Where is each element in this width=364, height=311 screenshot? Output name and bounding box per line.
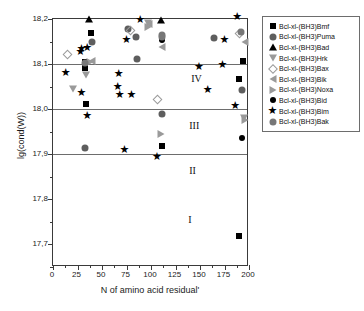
triangle-down-open-marker [69,86,77,93]
data-point: ★ [223,65,233,73]
x-tick-label: 100 [143,270,156,279]
star-marker: ★ [82,44,92,52]
circle-lightgray-marker [158,34,165,41]
data-point [88,30,94,36]
x-axis-tick-labels: 0255075100125150175200 [52,270,248,281]
star-marker: ★ [120,146,130,154]
data-point: ★ [81,93,91,101]
star-marker: ★ [113,83,123,91]
star-marker: ★ [230,101,240,109]
data-point: ★ [140,20,150,28]
x-tick-label: 75 [121,270,130,279]
y-tick [48,244,53,245]
legend-item[interactable]: Bcl-xl-(BH3)Bik [266,74,356,85]
data-point [67,55,74,62]
plot-area: ★★★★★★★★★★★★★★★★★★★★ IIIIIIIV [52,18,248,266]
legend-marker [266,74,279,84]
region-label: I [188,214,191,225]
circle-gray-marker [134,55,141,62]
data-point: ★ [120,95,130,103]
data-point: ★ [224,40,234,48]
legend-item[interactable]: Bcl-xl-(BH3)Bad [266,42,356,53]
legend-marker: ★ [266,106,279,116]
circle-gray-marker [125,25,132,32]
square-filled-marker [83,101,89,107]
y-tick [48,19,53,20]
data-point: ★ [126,40,136,48]
data-point [242,38,249,46]
legend: Bcl-xl-(BH3)BmfBcl-xl-(BH3)PumaBcl-xl-(B… [262,16,360,132]
triangle-left-open-marker [242,38,249,46]
data-point [242,116,249,124]
data-point [134,55,141,62]
data-point: ★ [157,157,167,165]
data-point: ★ [118,87,128,95]
region-label: IV [191,73,202,84]
x-tick-label: 200 [241,270,254,279]
reference-line [53,64,247,65]
x-tick-label: 150 [192,270,205,279]
triangle-down-open-marker [144,19,152,26]
x-tick-minor [90,265,91,268]
star-marker: ★ [61,68,71,76]
legend-item[interactable]: Bcl-xl-(BH3)Bak [266,116,356,127]
legend-label: Bcl-xl-(BH3)Bak [279,117,329,126]
data-point [158,110,165,117]
data-point: ★ [208,90,218,98]
circle-gray-marker [239,86,246,93]
region-label: III [189,120,199,131]
data-point: ★ [119,74,129,82]
diamond-open-marker [126,26,136,36]
diamond-open-marker [235,29,245,39]
triangle-left-open-marker [158,43,165,51]
data-point [240,115,248,122]
star-marker: ★ [220,36,230,44]
star-marker: ★ [268,107,278,115]
star-marker: ★ [114,70,124,78]
y-tick-minor [50,42,53,43]
data-point [144,19,152,26]
data-point: ★ [237,17,247,25]
x-tick-label: 125 [168,270,181,279]
data-point [158,31,165,38]
scatter-chart: ★★★★★★★★★★★★★★★★★★★★ IIIIIIIV 17,717,817… [0,0,364,311]
legend-label: Bcl-xl-(BH3)Bim [279,107,329,116]
circle-filled-marker [239,135,245,141]
x-tick-minor [139,265,140,268]
data-point [83,101,89,107]
diamond-open-marker [62,50,72,60]
legend-label: Bcl-xl-(BH3)Bid [279,96,327,105]
legend-item[interactable]: Bcl-xl-(BH3)Bid [266,95,356,106]
diamond-open-marker [268,64,278,74]
x-tick-minor [212,265,213,268]
legend-item[interactable]: ★Bcl-xl-(BH3)Bim [266,106,356,117]
square-filled-marker [159,143,165,149]
circle-lightgray-marker [269,118,276,125]
data-point [157,100,164,107]
legend-marker [266,53,279,63]
legend-item[interactable]: Bcl-xl-(BH3)Puma [266,32,356,43]
x-tick-label: 175 [217,270,230,279]
circle-lightgray-marker [238,29,245,36]
data-point: ★ [66,73,76,81]
y-tick-minor [50,222,53,223]
triangle-down-open-marker [240,115,248,122]
data-point [239,135,245,141]
legend-item[interactable]: Bcl-xl-(BH3)Bax [266,63,356,74]
data-point [125,25,132,32]
circle-lightgray-marker [82,59,89,66]
y-tick-label: 17,9 [32,149,48,158]
circle-lightgray-marker [158,31,165,38]
x-tick-minor [237,265,238,268]
legend-marker [266,85,279,95]
legend-label: Bcl-xl-(BH3)Bik [279,75,326,84]
reference-line [53,154,247,155]
legend-item[interactable]: Bcl-xl-(BH3)Bmf [266,21,356,32]
star-marker: ★ [76,89,86,97]
legend-label: Bcl-xl-(BH3)Bax [279,64,329,73]
x-tick-minor [163,265,164,268]
star-marker: ★ [76,44,86,52]
legend-item[interactable]: Bcl-xl-(BH3)Noxa [266,85,356,96]
data-point [82,59,89,66]
legend-item[interactable]: Bcl-xl-(BH3)Hrk [266,53,356,64]
